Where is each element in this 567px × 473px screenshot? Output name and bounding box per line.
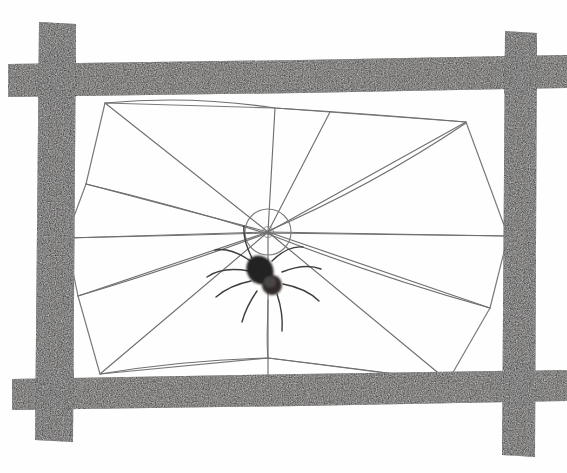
right-bar-top-joint [504,50,537,94]
left-bar-top-joint [38,55,76,100]
spider-web-scene [0,0,567,473]
spider-thorax-highlight [264,277,276,288]
right-bar-bottom-joint [503,366,535,408]
left-bar-bottom-joint [36,370,74,412]
photograph-canvas: Spider on web between wooden frame bars … [0,0,567,473]
